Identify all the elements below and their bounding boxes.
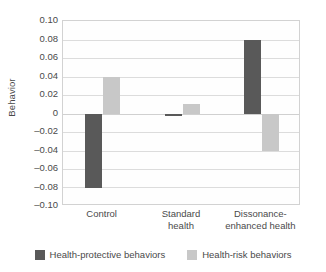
- legend-item: Health-risk behaviors: [187, 249, 291, 260]
- y-axis-tick-label: –0.10: [10, 200, 58, 210]
- y-axis-tick-label: 0.10: [10, 15, 58, 25]
- y-axis-tick-label: –0.08: [10, 182, 58, 192]
- y-axis-tick-label: 0.08: [10, 34, 58, 44]
- chart-legend: Health-protective behaviorsHealth-risk b…: [0, 249, 326, 260]
- bar-group-container: [63, 21, 299, 204]
- bar-chart-figure: Behavior 0.100.080.060.040.020–0.02–0.04…: [0, 0, 326, 272]
- x-axis-label-line: Dissonance-: [211, 208, 310, 220]
- y-axis-tick-label: 0: [10, 108, 58, 118]
- x-axis-label-line: enhanced health: [211, 220, 310, 232]
- legend-swatch-icon: [35, 250, 45, 260]
- y-axis-tick-label: –0.06: [10, 163, 58, 173]
- bar: [262, 114, 279, 151]
- y-axis-tick-label: –0.02: [10, 126, 58, 136]
- plot-area: [62, 20, 300, 205]
- legend-item: Health-protective behaviors: [35, 249, 166, 260]
- legend-label: Health-protective behaviors: [50, 249, 166, 260]
- bar: [165, 114, 182, 117]
- y-axis-tick-label: 0.04: [10, 71, 58, 81]
- y-axis-tick-label: –0.04: [10, 145, 58, 155]
- y-axis-tick-label: 0.06: [10, 52, 58, 62]
- legend-label: Health-risk behaviors: [202, 249, 291, 260]
- y-axis-tick-label: 0.02: [10, 89, 58, 99]
- legend-swatch-icon: [187, 250, 197, 260]
- y-axis-tick-labels: 0.100.080.060.040.020–0.02–0.04–0.06–0.0…: [10, 20, 58, 205]
- bar: [244, 40, 261, 114]
- bar: [103, 77, 120, 114]
- bar: [85, 114, 102, 188]
- x-axis-category-label: Dissonance-enhanced health: [211, 208, 310, 231]
- x-axis-category-labels: ControlStandardhealthDissonance-enhanced…: [62, 208, 300, 240]
- bar: [183, 104, 200, 113]
